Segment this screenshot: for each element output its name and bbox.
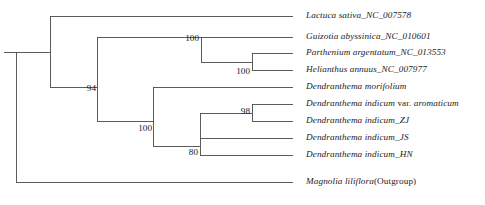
support-indicum-clade: 80 [176,148,198,157]
tip-label-lactuca_sativa: Lactuca sativa_NC_007578 [306,11,411,20]
vertical-node-connector-layer [16,16,252,182]
support-indicum-pair: 98 [228,107,250,116]
horizontal-branch-layer [4,16,293,182]
tip-label-dendranthema_indicum_zj: Dendranthema indicum_ZJ [306,116,409,125]
tip-label-guizotia_abyssinica: Guizotia abyssinica_NC_010601 [306,32,431,41]
tip-label-helianthus_annuus: Helianthus annuus_NC_007977 [306,65,427,74]
tip-label-magnolia_liliflora: Magnolia liliflora(Outgroup) [306,177,416,186]
tip-label-dendranthema_morifolium: Dendranthema morifolium [306,82,407,91]
tip-label-dendranthema_indicum_hn: Dendranthema indicum_HN [306,150,413,159]
support-asteraceae: 94 [74,84,96,93]
tip-label-parthenium_argentatum: Parthenium argentatum_NC_013553 [306,48,446,57]
tip-label-dendranthema_indicum_aromaticum: Dendranthema indicum var. aromaticum [306,99,459,108]
phylogenetic-tree-figure: Lactuca sativa_NC_007578Guizotia abyssin… [0,0,485,205]
support-core-asteraceae: 100 [130,124,152,133]
support-heliantheae: 100 [177,34,199,43]
support-parthenium-helianthus: 100 [228,67,250,76]
tip-label-dendranthema_indicum_js: Dendranthema indicum_JS [306,133,409,142]
